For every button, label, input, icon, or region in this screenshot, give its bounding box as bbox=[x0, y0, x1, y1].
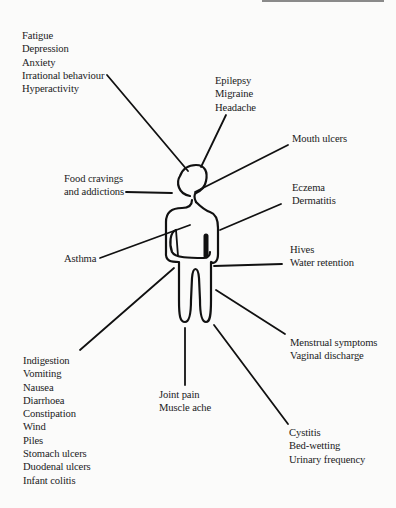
label-group-head: Epilepsy Migraine Headache bbox=[215, 74, 256, 114]
label-line: Vaginal discharge bbox=[290, 349, 377, 362]
label-group-fluid: Hives Water retention bbox=[290, 243, 354, 270]
label-line: Duodenal ulcers bbox=[23, 460, 91, 473]
label-line: Hyperactivity bbox=[22, 82, 104, 95]
label-line: Joint pain bbox=[159, 388, 211, 401]
label-line: Mouth ulcers bbox=[292, 132, 347, 145]
label-group-skin: Eczema Dermatitis bbox=[292, 181, 336, 208]
label-line: Urinary frequency bbox=[289, 453, 365, 466]
pointer-head bbox=[201, 115, 226, 167]
label-line: Dermatitis bbox=[292, 194, 336, 207]
label-line: Epilepsy bbox=[215, 74, 256, 87]
figure-head bbox=[178, 165, 206, 202]
label-line: Headache bbox=[215, 101, 256, 114]
label-line: Wind bbox=[23, 420, 91, 433]
pointer-cravings bbox=[126, 192, 172, 193]
pointer-skin bbox=[220, 204, 281, 230]
label-line: Depression bbox=[22, 42, 104, 55]
label-line: Stomach ulcers bbox=[23, 447, 91, 460]
figure-body bbox=[166, 200, 218, 322]
label-group-musculoskeletal: Joint pain Muscle ache bbox=[159, 388, 211, 415]
pointer-urinary bbox=[214, 325, 288, 424]
label-line: Eczema bbox=[292, 181, 336, 194]
label-line: Menstrual symptoms bbox=[290, 336, 377, 349]
label-line: Piles bbox=[23, 434, 91, 447]
label-line: Vomiting bbox=[23, 367, 91, 380]
label-line: Irrational behaviour bbox=[22, 69, 104, 82]
label-group-mouth: Mouth ulcers bbox=[292, 132, 347, 145]
label-line: Anxiety bbox=[22, 56, 104, 69]
label-line: and addictions bbox=[64, 185, 124, 198]
pointer-reproductive bbox=[216, 290, 285, 334]
label-line: Bed-wetting bbox=[289, 439, 365, 452]
label-group-lungs: Asthma bbox=[64, 252, 96, 265]
label-line: Fatigue bbox=[22, 29, 104, 42]
label-group-digestive: Indigestion Vomiting Nausea Diarrhoea Co… bbox=[23, 354, 91, 487]
label-line: Diarrhoea bbox=[23, 394, 91, 407]
label-line: Constipation bbox=[23, 407, 91, 420]
label-group-urinary: Cystitis Bed-wetting Urinary frequency bbox=[289, 426, 365, 466]
label-line: Indigestion bbox=[23, 354, 91, 367]
label-line: Hives bbox=[290, 243, 354, 256]
label-group-reproductive: Menstrual symptoms Vaginal discharge bbox=[290, 336, 377, 363]
label-group-mental: Fatigue Depression Anxiety Irrational be… bbox=[22, 29, 104, 95]
pointer-digestive bbox=[80, 268, 174, 350]
label-line: Migraine bbox=[215, 87, 256, 100]
label-line: Nausea bbox=[23, 381, 91, 394]
label-line: Cystitis bbox=[289, 426, 365, 439]
label-line: Water retention bbox=[290, 256, 354, 269]
label-line: Infant colitis bbox=[23, 474, 91, 487]
label-line: Asthma bbox=[64, 252, 96, 265]
label-line: Muscle ache bbox=[159, 401, 211, 414]
pointer-mental bbox=[107, 75, 188, 171]
pointer-fluid bbox=[214, 264, 282, 266]
label-group-cravings: Food cravings and addictions bbox=[64, 172, 124, 199]
label-line: Food cravings bbox=[64, 172, 124, 185]
